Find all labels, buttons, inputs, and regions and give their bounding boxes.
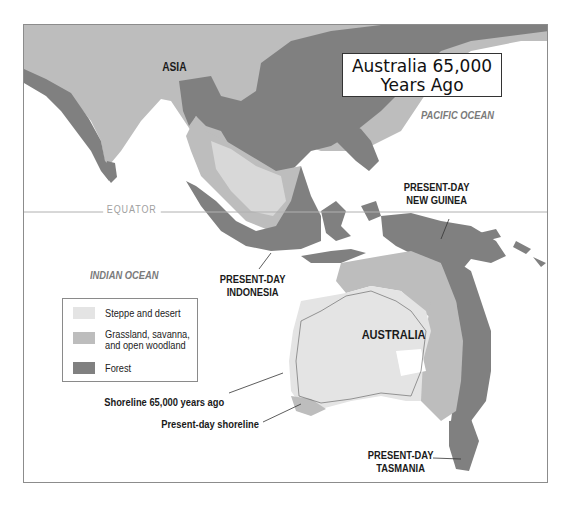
indonesia-leader-line [259,253,271,269]
legend-swatch-forest [73,362,95,374]
sri-lanka-island [105,161,117,183]
new-guinea-label-line-1: PRESENT-DAY [404,181,470,194]
tasmania-forest-region [449,419,479,471]
tasmania-label-line-1: PRESENT-DAY [368,449,434,462]
pacific-ocean-label: PACIFIC OCEAN [421,109,494,121]
shoreline-present-leader-line [263,404,301,422]
legend-swatch-steppe [73,307,95,319]
map-legend: Steppe and desert Grassland, savanna, an… [62,298,198,382]
equator-label: EQUATOR [103,204,160,215]
indonesia-label-line-1: PRESENT-DAY [220,273,286,286]
map-title: Australia 65,000 Years Ago [342,53,502,97]
new-guinea-label: PRESENT-DAY NEW GUINEA [404,181,470,207]
australia-label: AUSTRALIA [362,328,426,341]
indonesia-label: PRESENT-DAY INDONESIA [220,273,286,299]
moluccas-islands [361,201,381,221]
title-line-2: Years Ago [343,76,501,95]
asia-label: ASIA [162,61,186,74]
legend-swatch-grassland [73,332,95,344]
shoreline-present-callout: Present-day shoreline [161,418,259,430]
indian-ocean-label: INDIAN OCEAN [90,269,159,281]
sulawesi-islands [321,201,351,241]
legend-label-steppe: Steppe and desert [105,308,181,319]
shoreline-past-leader-line [229,373,283,393]
solomon-islands [513,241,546,267]
legend-label-grassland-line-2: and open woodland [105,340,186,351]
tasmania-label-line-2: TASMANIA [368,462,434,475]
australia-steppe-region [289,286,431,409]
shoreline-past-callout: Shoreline 65,000 years ago [104,396,224,408]
new-guinea-label-line-2: NEW GUINEA [404,194,470,207]
legend-label-forest: Forest [105,363,131,374]
tasmania-label: PRESENT-DAY TASMANIA [368,449,434,475]
title-line-1: Australia 65,000 [343,57,501,76]
indonesia-label-line-2: INDONESIA [220,286,286,299]
